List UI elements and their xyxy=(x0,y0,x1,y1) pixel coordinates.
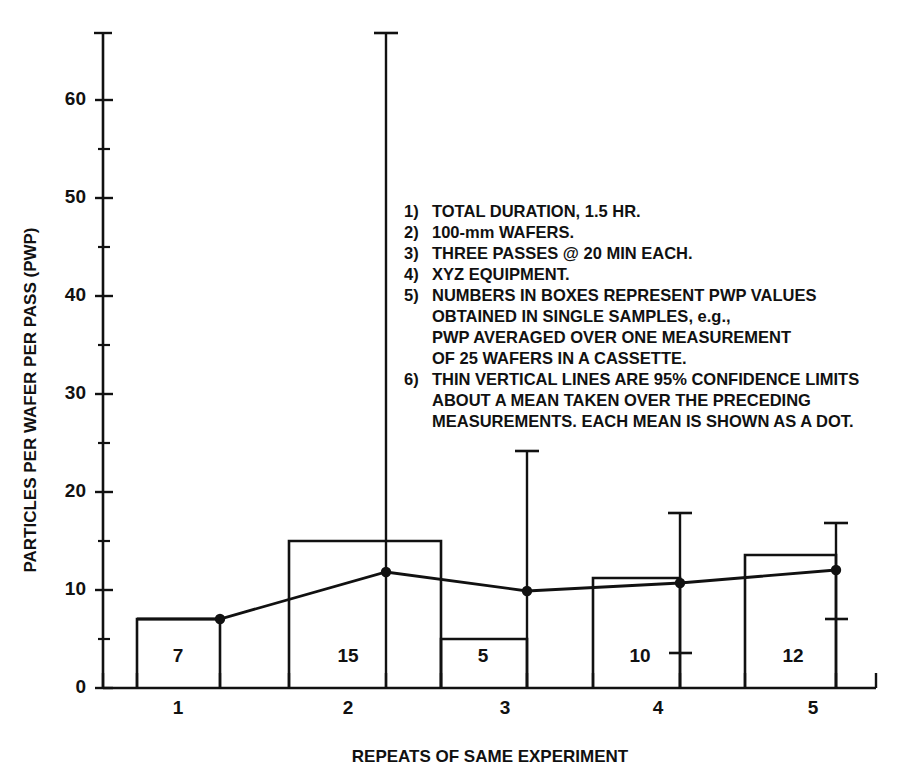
note-4-number: 4) xyxy=(404,265,419,283)
y-tick-label-20: 20 xyxy=(65,480,86,501)
note-3-line-1: THREE PASSES @ 20 MIN EACH. xyxy=(432,244,693,262)
mean-dot-4 xyxy=(675,578,685,588)
note-2-line-1: 100-mm WAFERS. xyxy=(432,223,574,241)
error-bar-5 xyxy=(824,522,848,688)
bar-value-1: 7 xyxy=(173,645,184,666)
note-3-number: 3) xyxy=(404,244,419,262)
note-6-line-3: MEASUREMENTS. EACH MEAN IS SHOWN AS A DO… xyxy=(432,412,854,430)
error-bar-4 xyxy=(668,512,692,688)
bar-2 xyxy=(289,541,441,688)
x-axis-title: REPEATS OF SAME EXPERIMENT xyxy=(352,747,629,766)
y-tick-label-30: 30 xyxy=(65,382,86,403)
mean-dot-1 xyxy=(215,614,225,624)
y-tick-label-60: 60 xyxy=(65,88,86,109)
note-5-line-1: NUMBERS IN BOXES REPRESENT PWP VALUES xyxy=(432,286,816,304)
note-4-line-1: XYZ EQUIPMENT. xyxy=(432,265,570,283)
note-5-line-2: OBTAINED IN SINGLE SAMPLES, e.g., xyxy=(432,307,731,325)
y-axis-title: PARTICLES PER WAFER PER PASS (PWP) xyxy=(21,227,40,572)
x-tick-label-1: 1 xyxy=(173,697,184,718)
annotation-notes: 1) TOTAL DURATION, 1.5 HR. 2) 100-mm WAF… xyxy=(404,202,859,430)
mean-line xyxy=(137,570,836,619)
bar-value-labels: 7 15 5 10 12 xyxy=(173,645,804,666)
chart-canvas: 0 10 20 30 40 50 60 1 2 3 xyxy=(0,0,914,782)
bar-value-3: 5 xyxy=(478,645,489,666)
note-5-line-4: OF 25 WAFERS IN A CASSETTE. xyxy=(432,349,687,367)
x-tick-label-2: 2 xyxy=(343,697,354,718)
mean-dot-5 xyxy=(831,565,841,575)
note-6-line-2: ABOUT A MEAN TAKEN OVER THE PRECEDING xyxy=(432,391,811,409)
y-tick-label-50: 50 xyxy=(65,186,86,207)
y-tick-label-40: 40 xyxy=(65,284,86,305)
mean-dot-2 xyxy=(381,567,391,577)
note-2-number: 2) xyxy=(404,223,419,241)
x-tick-label-3: 3 xyxy=(500,697,511,718)
note-5-line-3: PWP AVERAGED OVER ONE MEASUREMENT xyxy=(432,328,791,346)
y-tick-labels: 0 10 20 30 40 50 60 xyxy=(65,88,86,697)
note-6-line-1: THIN VERTICAL LINES ARE 95% CONFIDENCE L… xyxy=(432,370,859,388)
note-1-line-1: TOTAL DURATION, 1.5 HR. xyxy=(432,202,641,220)
x-tick-label-5: 5 xyxy=(808,697,819,718)
note-5-number: 5) xyxy=(404,286,419,304)
note-1-number: 1) xyxy=(404,202,419,220)
error-bar-3 xyxy=(515,450,539,688)
bar-value-5: 12 xyxy=(782,645,803,666)
y-tick-label-10: 10 xyxy=(65,578,86,599)
error-bar-2 xyxy=(374,32,398,688)
note-6-number: 6) xyxy=(404,370,419,388)
x-tick-label-4: 4 xyxy=(653,697,664,718)
y-tick-label-0: 0 xyxy=(75,676,86,697)
bar-4 xyxy=(593,578,680,688)
mean-dot-3 xyxy=(522,586,532,596)
chart-figure: 0 10 20 30 40 50 60 1 2 3 xyxy=(0,0,914,782)
bar-value-2: 15 xyxy=(337,645,359,666)
mean-series xyxy=(137,565,841,624)
x-tick-labels: 1 2 3 4 5 xyxy=(173,697,819,718)
bar-value-4: 10 xyxy=(629,645,650,666)
